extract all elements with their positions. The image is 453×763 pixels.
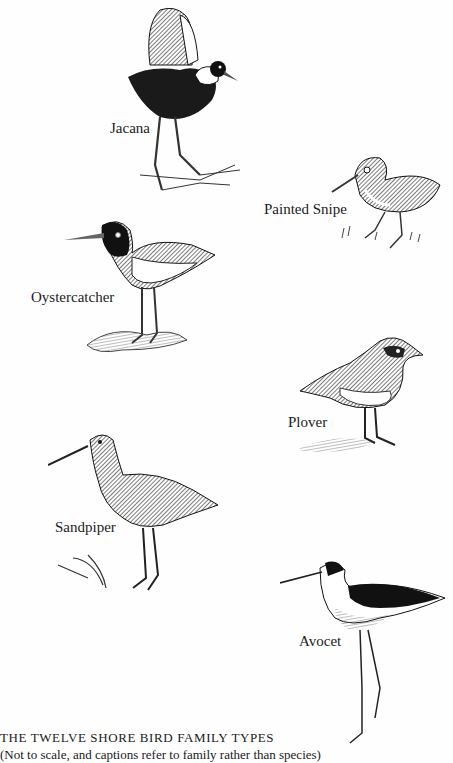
oystercatcher-illustration [62,215,217,360]
painted-snipe-label: Painted Snipe [264,201,347,218]
plover-label: Plover [288,414,327,431]
jacana-illustration [120,5,245,200]
avocet-illustration [280,558,450,748]
sandpiper-illustration [48,430,228,600]
plover-illustration [295,333,430,458]
figure-caption-subtitle: (Not to scale, and captions refer to fam… [0,747,321,763]
avocet-label: Avocet [299,633,341,650]
figure-caption-title: THE TWELVE SHORE BIRD FAMILY TYPES [0,730,274,746]
sandpiper-label: Sandpiper [55,519,116,536]
jacana-label: Jacana [110,120,150,137]
painted-snipe-illustration [330,150,450,260]
oystercatcher-label: Oystercatcher [31,289,114,306]
